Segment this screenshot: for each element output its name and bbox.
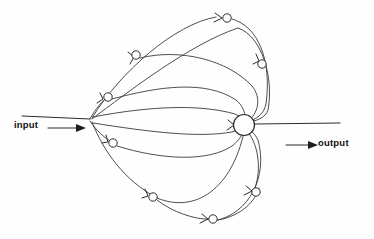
arc-lower-1 [117, 128, 244, 157]
output-label: output [318, 137, 349, 148]
central-hub [234, 115, 255, 136]
node-bottom [209, 215, 217, 223]
diagram-canvas [0, 0, 374, 239]
node-lower-left [149, 193, 157, 201]
arc-upper-3 [112, 87, 245, 121]
input-label: input [14, 119, 38, 130]
output-line [255, 123, 340, 124]
arc-bottom-right [246, 130, 258, 188]
node-top [223, 14, 231, 22]
arc-outer-top [92, 17, 216, 118]
node-upper-left [132, 51, 140, 59]
node-left-lower [109, 139, 117, 147]
arc-lower-2 [92, 122, 244, 203]
node-lower-right [252, 188, 260, 196]
node-upper-right [258, 60, 266, 68]
chevron-group [97, 13, 259, 223]
arc-lower-inner [93, 123, 244, 134]
arc-upper-inner [93, 108, 244, 121]
node-left-upper [104, 93, 112, 101]
input-arrowhead [76, 124, 86, 132]
arc-top-return [232, 19, 267, 121]
signal-flow-diagram: input output [0, 0, 374, 239]
output-arrowhead [308, 141, 318, 149]
chevron-lower-right [244, 186, 252, 195]
